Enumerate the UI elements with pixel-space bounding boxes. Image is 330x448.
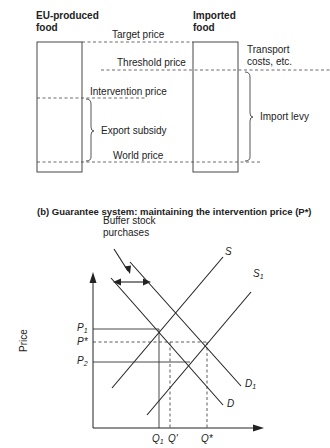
tick-Q1: Q1	[152, 433, 164, 448]
tick-Qstar: Q*	[201, 433, 213, 445]
tick-P1: P1	[77, 322, 88, 337]
transport-costs-label: Transport costs, etc.	[247, 44, 292, 68]
export-subsidy-bracket	[86, 99, 94, 161]
tick-P2: P2	[77, 355, 88, 370]
curve-label-S: S	[225, 246, 232, 258]
supply-curve-S	[112, 257, 223, 388]
y-axis-arrow-icon	[90, 272, 97, 283]
import-levy-bracket	[245, 72, 253, 161]
threshold-price-label: Threshold price	[117, 57, 186, 69]
tick-Qprime: Q'	[168, 433, 178, 445]
import-levy-label: Import levy	[260, 111, 309, 123]
curve-label-D1: D1	[245, 378, 256, 393]
target-price-label: Target price	[112, 29, 164, 41]
x-axis-arrow-icon	[253, 425, 264, 432]
export-subsidy-label: Export subsidy	[101, 125, 167, 137]
curve-label-S1: S1	[253, 268, 264, 283]
buffer-stock-annotation: Buffer stock purchases	[103, 215, 156, 239]
tick-Pstar: P*	[77, 336, 88, 348]
y-axis-label: Price	[18, 329, 30, 352]
imported-food-box	[193, 42, 238, 172]
intervention-price-label: Intervention price	[90, 86, 167, 98]
eu-food-box	[37, 42, 82, 172]
supply-curve-S1	[147, 292, 251, 415]
pointer-arrowhead-icon	[125, 266, 132, 275]
panel-b-title: (b) Guarantee system: maintaining the in…	[37, 206, 312, 217]
curve-label-D: D	[227, 398, 234, 410]
demand-curve-D	[111, 278, 223, 405]
world-price-label: World price	[113, 150, 163, 162]
